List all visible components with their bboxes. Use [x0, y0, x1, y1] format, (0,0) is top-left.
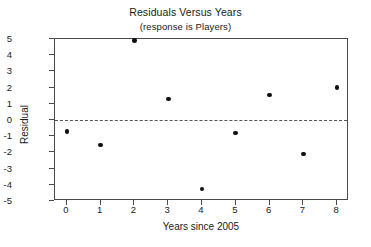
y-tick-label: 0	[0, 114, 12, 125]
x-tick-label: 6	[254, 204, 284, 215]
x-tick-mark	[167, 200, 168, 205]
y-tick-label: -4	[0, 178, 12, 189]
x-tick-mark	[100, 200, 101, 205]
x-tick-mark	[66, 200, 67, 205]
x-axis-label: Years since 2005	[54, 221, 348, 232]
y-tick-label: 2	[0, 81, 12, 92]
x-tick-mark	[269, 200, 270, 205]
x-tick-label: 4	[186, 204, 216, 215]
data-point	[267, 93, 272, 98]
x-tick-label: 8	[321, 204, 351, 215]
data-point	[200, 187, 205, 192]
x-tick-label: 1	[85, 204, 115, 215]
x-tick-label: 7	[287, 204, 317, 215]
y-tick-label: 4	[0, 49, 12, 60]
zero-reference-line	[55, 120, 347, 121]
y-tick-label: -3	[0, 162, 12, 173]
y-tick-label: 3	[0, 65, 12, 76]
y-tick-label: 1	[0, 97, 12, 108]
x-tick-label: 3	[152, 204, 182, 215]
page-title: Residuals Versus Years	[0, 6, 371, 18]
data-point	[98, 143, 103, 148]
y-tick-label: 5	[0, 33, 12, 44]
data-point	[132, 38, 137, 43]
x-tick-mark	[235, 200, 236, 205]
y-tick-label: -5	[0, 195, 12, 206]
y-tick-label: -1	[0, 130, 12, 141]
x-tick-label: 5	[220, 204, 250, 215]
y-axis-label: Residual	[19, 95, 30, 155]
x-tick-mark	[302, 200, 303, 205]
x-tick-mark	[133, 200, 134, 205]
x-tick-mark	[336, 200, 337, 205]
data-point	[166, 97, 171, 102]
plot-area	[54, 38, 348, 200]
data-point	[301, 152, 306, 157]
data-point	[65, 129, 70, 134]
y-tick-label: -2	[0, 146, 12, 157]
data-point	[233, 131, 238, 136]
y-tick-mark	[49, 200, 54, 201]
x-tick-mark	[201, 200, 202, 205]
data-point	[335, 85, 340, 90]
x-tick-label: 0	[51, 204, 81, 215]
chart-subtitle: (response is Players)	[0, 21, 371, 32]
x-tick-label: 2	[118, 204, 148, 215]
residual-plot-page: Residuals Versus Years (response is Play…	[0, 0, 371, 247]
